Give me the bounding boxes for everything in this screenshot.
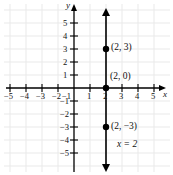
point-label-2-0: (2, 0)	[110, 72, 131, 82]
x-axis	[6, 85, 166, 91]
y-tick-label-3: 3	[63, 45, 67, 54]
y-axis-label: y	[66, 1, 70, 10]
y-tick-label-4: 4	[63, 32, 67, 41]
x-axis-label: x	[163, 90, 167, 99]
point-label-2-3: (2, 3)	[111, 43, 132, 53]
x-tick-label-3: 3	[119, 92, 123, 101]
y-tick-label-1: 1	[63, 71, 67, 80]
point-label-2-neg3: (2, −3)	[111, 122, 137, 132]
equation-label: x = 2	[117, 140, 137, 150]
graph-canvas	[0, 0, 173, 175]
x-tick-label-5: 5	[151, 92, 155, 101]
y-tick-label-neg4: −4	[60, 136, 69, 145]
x-tick-label-2: 2	[103, 92, 107, 101]
x-tick-label-neg3: −3	[36, 92, 45, 101]
x-tick-label-1: 1	[87, 92, 91, 101]
point-2-3	[103, 46, 109, 52]
y-tick-label-neg1: −1	[60, 97, 69, 106]
y-tick-label-neg2: −2	[60, 110, 69, 119]
x-tick-label-neg5: −5	[4, 92, 13, 101]
y-tick-label-neg5: −5	[60, 149, 69, 158]
y-tick-label-2: 2	[63, 58, 67, 67]
y-tick-label-neg3: −3	[60, 123, 69, 132]
x-tick-label-neg4: −4	[20, 92, 29, 101]
y-tick-label-5: 5	[63, 19, 67, 28]
x-tick-label-4: 4	[135, 92, 139, 101]
point-2-neg3	[103, 124, 109, 130]
coordinate-plane-figure: x y −5 −4 −3 −2 −1 1 2 3 4 5 5 4 3 2 1 −…	[0, 0, 173, 175]
